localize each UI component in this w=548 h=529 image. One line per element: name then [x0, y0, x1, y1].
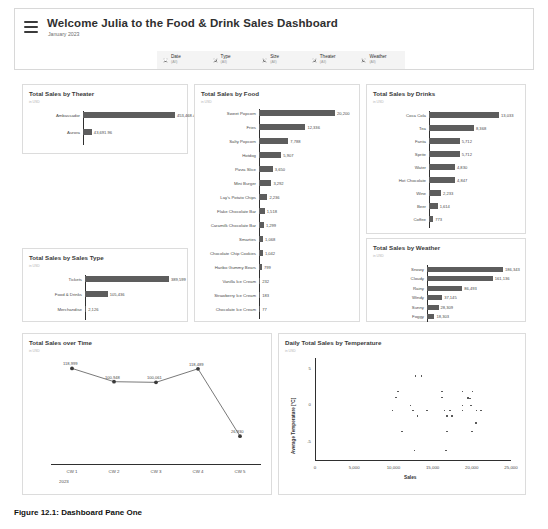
bar-row[interactable]: Chocolate Ice Cream77 — [207, 305, 267, 313]
scatter-point — [471, 431, 473, 433]
bar-row[interactable]: Flake Chocolate Bar1,518 — [207, 207, 277, 215]
scatter-point — [415, 375, 417, 377]
x-axis-tick-label: CW 1 — [58, 469, 86, 474]
bar-value-label: 183 — [262, 293, 269, 298]
bar-row[interactable]: Sunny28,309 — [375, 303, 453, 311]
bar-value-label: 13,033 — [501, 113, 514, 118]
bar-row[interactable]: Water4,830 — [377, 163, 467, 171]
filter-size[interactable]: Size (All) — [256, 51, 306, 69]
bar — [429, 216, 433, 222]
filter-date[interactable]: Date (All) — [157, 51, 207, 69]
bar-row[interactable]: Haribo Gummy Bears799 — [207, 263, 271, 271]
bar-value-label: 7,788 — [290, 139, 300, 144]
bar-category-label: Sweet Popcorn — [207, 111, 259, 116]
bar-chart-drinks: Coca Cola13,033Tea8,368Fanta5,712Sprite5… — [367, 85, 525, 233]
bar-row[interactable]: Foggy18,303 — [375, 313, 449, 321]
bar-value-label: 186,343 — [505, 267, 520, 272]
bar-value-label: 2,233 — [443, 191, 453, 196]
bar-chart-food: Sweet Popcorn20,200Fries12,336Salty Popc… — [195, 85, 359, 321]
bar-row[interactable]: Windy37,145 — [375, 294, 457, 302]
bar-row[interactable]: Pizza Slice3,650 — [207, 165, 285, 173]
bar-row[interactable]: Strawberry Ice Cream183 — [207, 291, 269, 299]
bar-row[interactable]: Sprite5,712 — [377, 150, 472, 158]
bar — [427, 267, 503, 272]
bar — [259, 152, 281, 158]
scatter-point — [414, 450, 416, 452]
bar-row[interactable]: Fanta5,712 — [377, 137, 472, 145]
bar-category-label: Rainy — [375, 286, 427, 291]
bar-row[interactable]: Caramilk Chocolate Bar1,299 — [207, 221, 276, 229]
bar-value-label: 86,493 — [464, 286, 477, 291]
bar-value-label: 37,145 — [444, 295, 457, 300]
bar-row[interactable]: Smarties1,068 — [207, 235, 275, 243]
chart-x-axis — [315, 460, 511, 461]
line-point-label: 100,948 — [105, 375, 120, 380]
bar-row[interactable]: Cloudy161,136 — [375, 275, 510, 283]
chart-x-axis — [51, 464, 261, 465]
bar-category-label: Fanta — [377, 139, 429, 144]
y-axis-title: Average Temperature [°C] — [291, 398, 296, 454]
bar — [259, 208, 265, 214]
bar-value-label: 1,299 — [266, 223, 276, 228]
filter-type[interactable]: Type (All) — [207, 51, 257, 69]
panel-daily-sales-by-temperature: Daily Total Sales by Temperature in USD … — [278, 333, 526, 495]
bar-row[interactable]: Wine2,233 — [377, 189, 453, 197]
bar-row[interactable]: Hotdog5,907 — [207, 151, 293, 159]
bar-row[interactable]: Hot Chocolate4,847 — [377, 176, 467, 184]
bar — [259, 194, 267, 200]
bar-category-label: Merchandise — [33, 307, 85, 312]
bar-category-label: Flake Chocolate Bar — [207, 209, 259, 214]
panel-total-sales-by-drinks: Total Sales by Drinks in USD Coca Cola13… — [366, 84, 526, 234]
hamburger-menu-icon[interactable] — [24, 21, 38, 33]
bar-category-label: Caramilk Chocolate Bar — [207, 223, 259, 228]
bar-chart-sales-type: Tickets389,599Food & Drinks105,436Mercha… — [23, 249, 187, 321]
bar-category-label: Cloudy — [375, 276, 427, 281]
bar — [85, 276, 169, 282]
filter-value: (All) — [270, 61, 279, 65]
scatter-point — [397, 391, 399, 393]
bar-row[interactable]: Sweet Popcorn20,200 — [207, 109, 350, 117]
scatter-point — [417, 415, 419, 417]
gear-icon — [262, 58, 267, 63]
dashboard-root: Welcome Julia to the Food & Drink Sales … — [0, 0, 548, 529]
filter-theater[interactable]: Theater (All) — [306, 51, 356, 69]
bar-value-label: 3,650 — [275, 167, 285, 172]
bar-category-label: Ambassador — [31, 113, 83, 118]
bar-row[interactable]: Salty Popcorn7,788 — [207, 137, 301, 145]
bar-row[interactable]: Beer1,614 — [377, 202, 450, 210]
scatter-point — [444, 410, 446, 412]
bar-row[interactable]: Lay's Potato Chips2,236 — [207, 193, 280, 201]
bar — [259, 110, 335, 116]
bar-row[interactable]: Coffee773 — [377, 215, 442, 223]
bar — [429, 125, 474, 131]
bar-row[interactable]: Coca Cola13,033 — [377, 111, 514, 119]
bar-category-label: Chocolate Chip Cookies — [207, 251, 259, 256]
bar-row[interactable]: Tickets389,599 — [33, 275, 186, 283]
bar-row[interactable]: Food & Drinks105,436 — [33, 290, 125, 298]
bar-row[interactable]: Rainy86,493 — [375, 284, 477, 292]
scatter-point — [445, 450, 447, 452]
bar-value-label: 232 — [262, 279, 269, 284]
chart-y-axis — [315, 358, 316, 460]
bar — [83, 112, 175, 118]
bar-category-label: Coffee — [377, 217, 429, 222]
bar-category-label: Hotdog — [207, 153, 259, 158]
bar-value-label: 773 — [435, 217, 442, 222]
bar — [429, 151, 460, 157]
bar-row[interactable]: Ambassador453,468.43 — [31, 111, 198, 119]
line-point-label: 118,489 — [189, 362, 204, 367]
bar-row[interactable]: Fries12,336 — [207, 123, 320, 131]
bar-row[interactable]: Vanilla Ice Cream232 — [207, 277, 269, 285]
filter-weather[interactable]: Weather (All) — [355, 51, 405, 69]
scatter-point — [475, 422, 477, 424]
bar-row[interactable]: Tea8,368 — [377, 124, 486, 132]
bar-row[interactable]: Mini Burger3,292 — [207, 179, 284, 187]
bar-row[interactable]: Chocolate Chip Cookies1,042 — [207, 249, 275, 257]
bar — [429, 112, 499, 118]
bar — [259, 264, 262, 270]
bar-row[interactable]: Snowy186,343 — [375, 265, 520, 273]
bar-row[interactable]: Aurora43,691.96 — [31, 128, 112, 136]
bar-row[interactable]: Merchandise2,126 — [33, 305, 98, 313]
bar-value-label: 18,303 — [436, 314, 449, 319]
x-axis-year-label: 2023 — [59, 479, 69, 484]
